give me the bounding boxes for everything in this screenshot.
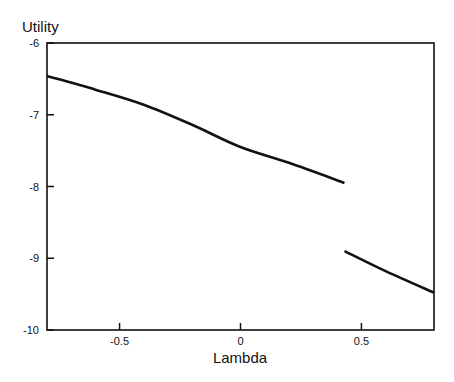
y-tick-label: -8 — [29, 181, 39, 193]
chart: -0.500.5 -6-7-8-9-10 Utility Lambda — [0, 0, 454, 382]
x-tick-label: -0.5 — [110, 335, 129, 347]
utility-line-segment-2 — [345, 251, 434, 293]
x-axis-ticks: -0.500.5 — [110, 323, 369, 347]
series-layer — [47, 76, 434, 293]
y-axis-title: Utility — [22, 18, 59, 35]
y-tick-label: -6 — [29, 37, 39, 49]
utility-line-segment-1 — [47, 76, 345, 183]
plot-frame — [47, 43, 434, 330]
y-tick-label: -7 — [29, 109, 39, 121]
x-tick-label: 0.5 — [354, 335, 369, 347]
plot-border — [47, 43, 434, 330]
y-tick-label: -9 — [29, 252, 39, 264]
x-tick-label: 0 — [237, 335, 243, 347]
y-tick-label: -10 — [23, 324, 39, 336]
y-axis-ticks: -6-7-8-9-10 — [23, 37, 54, 336]
x-axis-title: Lambda — [213, 349, 268, 366]
